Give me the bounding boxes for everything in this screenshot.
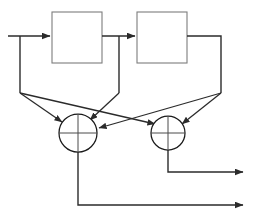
diagram-svg — [0, 0, 255, 222]
adder-left[interactable] — [59, 114, 97, 152]
block-diagram-canvas — [0, 0, 255, 222]
wire-branch-mid-to-adder-left — [90, 93, 119, 120]
block-2[interactable] — [137, 12, 187, 63]
wire-adder-right-to-output-upper — [168, 150, 243, 172]
wire-block2-tap-down — [187, 36, 221, 93]
wire-branch-right-to-adder-right — [182, 93, 221, 124]
wire-adder-left-to-output-lower — [78, 152, 243, 205]
adder-right[interactable] — [151, 116, 185, 150]
block-1[interactable] — [52, 12, 102, 63]
